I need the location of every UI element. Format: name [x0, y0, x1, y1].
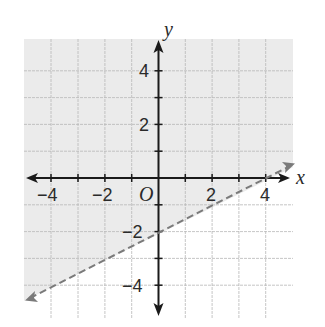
x-tick-label: −2	[92, 185, 113, 205]
x-axis-label: x	[295, 166, 305, 188]
x-tick-label: 2	[206, 185, 216, 205]
coordinate-plane: y x O −4 −2 2 4 4 2 −2 −4	[0, 0, 325, 327]
x-tick-label: 4	[260, 185, 270, 205]
y-tick-label: 4	[139, 61, 149, 81]
y-tick-label: −2	[122, 222, 143, 242]
origin-label: O	[139, 183, 153, 205]
x-tick-label: −4	[37, 185, 58, 205]
y-axis-label: y	[162, 18, 173, 41]
y-tick-label: 2	[139, 115, 149, 135]
y-tick-label: −4	[122, 276, 143, 296]
